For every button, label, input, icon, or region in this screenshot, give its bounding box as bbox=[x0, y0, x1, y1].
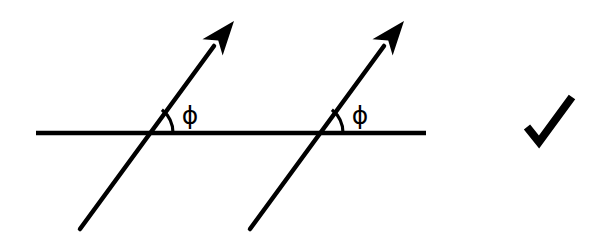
figure-svg: ϕ ϕ bbox=[0, 0, 600, 237]
figure-background bbox=[0, 0, 600, 237]
diagram-canvas: ϕ ϕ bbox=[0, 0, 600, 237]
angle-label-phi-2: ϕ bbox=[352, 101, 369, 130]
angle-label-phi-1: ϕ bbox=[182, 101, 199, 130]
